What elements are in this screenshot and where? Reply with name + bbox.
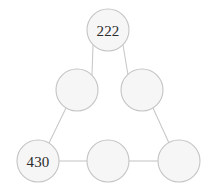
- edge-top-to-mid-left: [92, 45, 93, 75]
- node-mid-left[interactable]: [56, 69, 98, 111]
- node-label-bottom-left: 430: [26, 154, 49, 170]
- node-top[interactable]: 222: [87, 9, 129, 51]
- edge-top-to-mid-right: [123, 45, 128, 75]
- node-bottom-right[interactable]: [158, 140, 200, 182]
- node-bottom-left[interactable]: 430: [17, 140, 59, 182]
- puzzle-diagram: 222430: [0, 0, 208, 194]
- node-circle-mid-left[interactable]: [56, 69, 98, 111]
- edge-mid-right-to-bottom-right: [153, 108, 169, 143]
- edge-mid-left-to-bottom-left: [49, 108, 66, 143]
- node-circle-mid-right[interactable]: [121, 69, 163, 111]
- nodes-group: 222430: [17, 9, 200, 182]
- node-label-top: 222: [96, 23, 119, 39]
- node-bottom-middle[interactable]: [87, 140, 129, 182]
- node-circle-bottom-right[interactable]: [158, 140, 200, 182]
- node-circle-bottom-middle[interactable]: [87, 140, 129, 182]
- puzzle-figure: 222430: [0, 0, 208, 194]
- node-mid-right[interactable]: [121, 69, 163, 111]
